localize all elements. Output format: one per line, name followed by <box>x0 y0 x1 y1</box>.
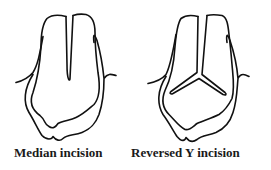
median-incision-drawing <box>0 0 135 145</box>
median-incision-caption: Median incision <box>14 145 103 161</box>
reversed-y-incision-drawing <box>135 0 271 145</box>
reversed-y-incision-caption: Reversed Y incision <box>131 145 240 161</box>
inner-outline <box>31 14 99 128</box>
median-incision <box>66 16 73 81</box>
reversed-y-incision-figure <box>135 0 271 145</box>
median-incision-figure <box>0 0 135 145</box>
reversed-y-incision <box>170 16 226 95</box>
